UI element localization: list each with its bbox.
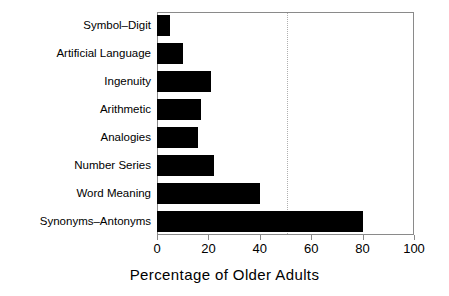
category-label: Analogies — [0, 127, 151, 148]
x-tick-mark — [260, 235, 261, 240]
bar-fill — [157, 15, 170, 36]
bar-fill — [157, 43, 183, 64]
bar — [157, 43, 183, 64]
x-tick-mark — [363, 235, 364, 240]
category-label: Word Meaning — [0, 183, 151, 204]
bar — [157, 155, 214, 176]
category-label: Synonyms–Antonyms — [0, 211, 151, 232]
x-tick-label: 60 — [304, 241, 318, 257]
bar-fill — [157, 155, 214, 176]
x-tick-mark — [311, 235, 312, 240]
bar — [157, 71, 211, 92]
x-tick-mark — [208, 235, 209, 240]
reference-line-50 — [287, 13, 288, 234]
bar — [157, 99, 201, 120]
bar-fill — [157, 183, 260, 204]
category-label: Artificial Language — [0, 43, 151, 64]
x-tick-mark — [414, 235, 415, 240]
x-tick-label: 20 — [201, 241, 215, 257]
bar — [157, 183, 260, 204]
bar-fill — [157, 71, 211, 92]
bar-fill — [157, 211, 363, 232]
category-label: Ingenuity — [0, 71, 151, 92]
bar — [157, 211, 363, 232]
bar-fill — [157, 127, 198, 148]
x-tick-label: 100 — [403, 241, 425, 257]
category-label: Arithmetic — [0, 99, 151, 120]
bar-chart: Symbol–DigitArtificial LanguageIngenuity… — [0, 0, 449, 296]
x-tick-label: 40 — [253, 241, 267, 257]
x-tick-label: 0 — [153, 241, 160, 257]
x-axis-title: Percentage of Older Adults — [0, 266, 449, 283]
bar-fill — [157, 99, 201, 120]
x-tick-mark — [157, 235, 158, 240]
bar — [157, 127, 198, 148]
category-label: Number Series — [0, 155, 151, 176]
category-label: Symbol–Digit — [0, 15, 151, 36]
bar — [157, 15, 170, 36]
x-tick-label: 80 — [355, 241, 369, 257]
